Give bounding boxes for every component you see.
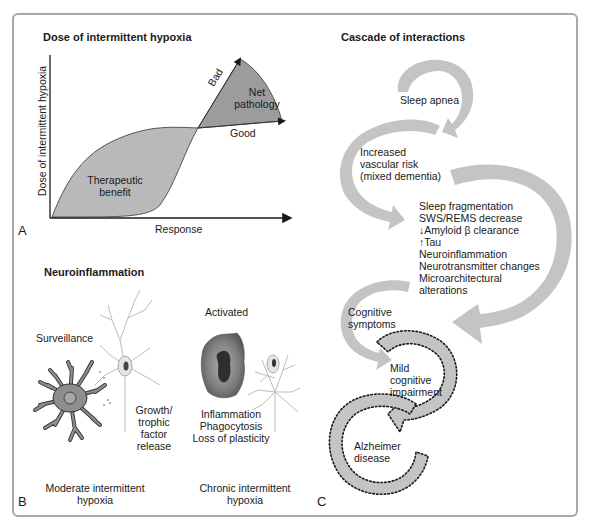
surveillance-label: Surveillance xyxy=(36,332,93,344)
panel-c-title: Cascade of interactions xyxy=(341,31,465,43)
therapeutic-benefit-label: Therapeutic benefit xyxy=(85,174,145,198)
panel-b-letter: B xyxy=(18,496,27,508)
panel-c-letter: C xyxy=(317,496,326,508)
panel-a-title: Dose of intermittent hypoxia xyxy=(43,31,192,43)
pathophysiology-list: Sleep fragmentation SWS/REMS decrease ↓A… xyxy=(419,200,540,296)
cognitive-symptoms-label: Cognitive symptoms xyxy=(348,306,396,330)
good-label: Good xyxy=(230,127,256,139)
sleep-apnea-label: Sleep apnea xyxy=(400,94,459,106)
growth-factor-label: Growth/ trophic factor release xyxy=(130,404,178,452)
panel-a-letter: A xyxy=(18,225,27,237)
moderate-hypoxia-label: Moderate intermittent hypoxia xyxy=(40,482,150,506)
x-axis-label: Response xyxy=(155,223,202,235)
mci-label: Mild cognitive impairment xyxy=(390,362,442,398)
y-axis-label: Dose of intermittent hypoxia xyxy=(36,66,48,196)
vascular-risk-label: Increased vascular risk (mixed dementia) xyxy=(360,146,441,182)
therapeutic-benefit-region xyxy=(52,127,198,217)
chronic-hypoxia-label: Chronic intermittent hypoxia xyxy=(195,482,295,506)
surveillance-microglia xyxy=(35,362,111,440)
panel-b-title: Neuroinflammation xyxy=(44,266,144,278)
alzheimer-label: Alzheimer disease xyxy=(354,440,401,464)
activated-microglia xyxy=(201,333,244,398)
activated-label: Activated xyxy=(205,306,248,318)
activated-effects-label: Inflammation Phagocytosis Loss of plasti… xyxy=(190,408,272,444)
net-pathology-label: Net pathology xyxy=(232,86,282,110)
